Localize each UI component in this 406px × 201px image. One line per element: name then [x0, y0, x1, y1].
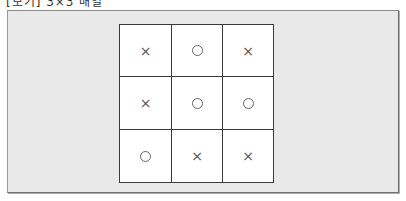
- x-mark-icon: ×: [191, 149, 203, 163]
- grid-cell-r2-c2: [172, 77, 223, 130]
- grid-cell-r2-c1: ×: [120, 77, 172, 130]
- grid-cell-r3-c2: ×: [172, 130, 223, 182]
- grid-cell-r3-c3: ×: [223, 130, 273, 182]
- grid-cell-r1-c3: ×: [223, 25, 273, 77]
- grid-cell-r1-c2: [172, 25, 223, 77]
- grid-cell-r1-c1: ×: [120, 25, 172, 77]
- x-mark-icon: ×: [140, 96, 152, 110]
- o-mark-icon: [243, 98, 254, 109]
- o-mark-icon: [192, 45, 203, 56]
- o-mark-icon: [140, 151, 151, 162]
- example-panel: × × × × ×: [7, 10, 399, 193]
- x-mark-icon: ×: [242, 44, 254, 58]
- grid-cell-r2-c3: [223, 77, 273, 130]
- caption-text: [보기] 3×3 배열: [6, 0, 103, 9]
- tic-tac-toe-grid: × × × × ×: [119, 24, 274, 183]
- o-mark-icon: [192, 98, 203, 109]
- x-mark-icon: ×: [242, 149, 254, 163]
- grid-cell-r3-c1: [120, 130, 172, 182]
- x-mark-icon: ×: [140, 44, 152, 58]
